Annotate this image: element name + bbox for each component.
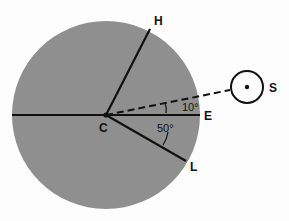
diagram-canvas: H C E L S 10° 50° xyxy=(0,0,289,221)
center-dot xyxy=(103,112,108,117)
angle-label-50: 50° xyxy=(157,122,174,134)
label-C: C xyxy=(99,121,108,135)
label-H: H xyxy=(154,14,163,28)
angle-label-10: 10° xyxy=(182,101,199,113)
diagram-svg: H C E L S 10° 50° xyxy=(0,0,289,221)
label-S: S xyxy=(269,81,277,95)
label-L: L xyxy=(190,160,197,174)
sun-dot xyxy=(245,85,249,89)
label-E: E xyxy=(204,109,212,123)
